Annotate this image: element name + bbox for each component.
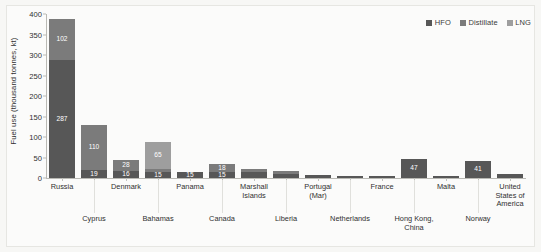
bar-value-label: 19: [90, 171, 97, 178]
bar-segment-hfo[interactable]: 41: [465, 161, 491, 178]
bar-stack[interactable]: [241, 169, 267, 178]
y-tick-label: 350: [29, 30, 42, 39]
y-tick-label: 150: [29, 112, 42, 121]
x-tick-mark: [62, 178, 63, 181]
x-label-leader-line: [286, 180, 287, 213]
bar-segment-dist[interactable]: 28: [113, 160, 139, 171]
x-axis-label-cell: Malta: [430, 180, 462, 246]
bar-segment-hfo[interactable]: 287: [49, 60, 75, 178]
bar-group[interactable]: 11019: [78, 14, 110, 178]
bar-stack[interactable]: 2816: [113, 160, 139, 178]
x-axis-label-cell: Portugal (Mar): [302, 180, 334, 246]
bar-stack[interactable]: 47: [401, 159, 427, 178]
bar-segment-dist[interactable]: 102: [49, 19, 75, 61]
plot-area: 050100150200250300350400 102287110192816…: [46, 14, 526, 178]
bar-stack[interactable]: 11019: [81, 125, 107, 178]
x-axis-label-cell: Denmark: [110, 180, 142, 246]
bar-group[interactable]: [302, 14, 334, 178]
bar-group[interactable]: 41: [462, 14, 494, 178]
x-tick-mark: [126, 178, 127, 181]
x-axis-label-cell: United States of America: [494, 180, 526, 246]
bar-value-label: 102: [56, 36, 67, 43]
y-tick-label: 250: [29, 71, 42, 80]
x-axis-label-cell: Russia: [46, 180, 78, 246]
bar-group[interactable]: [238, 14, 270, 178]
x-label-leader-line: [222, 180, 223, 213]
bar-segment-dist[interactable]: 110: [81, 125, 107, 170]
bar-group[interactable]: 2816: [110, 14, 142, 178]
x-tick-mark: [510, 178, 511, 181]
bar-value-label: 65: [154, 152, 161, 159]
y-tick-label: 300: [29, 51, 42, 60]
bar-stack[interactable]: 1815: [209, 164, 235, 178]
x-tick-mark: [382, 178, 383, 181]
bar-segment-dist[interactable]: 18: [209, 164, 235, 171]
bar-value-label: 28: [122, 162, 129, 169]
chart-container: HFODistillateLNG Fuel use (thousand tonn…: [0, 0, 541, 252]
y-tick-label: 400: [29, 10, 42, 19]
bar-value-label: 287: [56, 116, 67, 123]
bar-series-group: 10228711019281665151518154741: [46, 14, 526, 178]
y-tick-label: 50: [34, 153, 42, 162]
y-tick-label: 0: [38, 174, 42, 183]
bar-stack[interactable]: 41: [465, 161, 491, 178]
bar-stack[interactable]: 6515: [145, 142, 171, 178]
bar-group[interactable]: 47: [398, 14, 430, 178]
x-tick-mark: [190, 178, 191, 181]
bar-group[interactable]: [430, 14, 462, 178]
y-tick-label: 100: [29, 133, 42, 142]
x-label-leader-line: [414, 180, 415, 213]
bar-value-label: 18: [218, 165, 225, 172]
x-axis-label-cell: France: [366, 180, 398, 246]
x-tick-mark: [446, 178, 447, 181]
x-axis-label-text: United States of America: [488, 183, 532, 209]
y-axis-title-text: Fuel use (thousand tonnes, kt): [9, 37, 18, 144]
bar-group[interactable]: 102287: [46, 14, 78, 178]
y-axis-title: Fuel use (thousand tonnes, kt): [6, 16, 20, 166]
x-axis-label-cell: Marshall Islands: [238, 180, 270, 246]
bar-group[interactable]: [334, 14, 366, 178]
bar-value-label: 47: [410, 165, 417, 172]
bar-stack[interactable]: 102287: [49, 19, 75, 178]
bar-segment-hfo[interactable]: 19: [81, 170, 107, 178]
x-label-leader-line: [94, 180, 95, 213]
x-label-leader-line: [158, 180, 159, 213]
bar-group[interactable]: [366, 14, 398, 178]
x-axis-label-cell: Panama: [174, 180, 206, 246]
bar-value-label: 41: [474, 166, 481, 173]
bar-value-label: 110: [89, 144, 100, 151]
bar-group[interactable]: [270, 14, 302, 178]
y-tick-label: 200: [29, 92, 42, 101]
bar-group[interactable]: 15: [174, 14, 206, 178]
bar-segment-hfo[interactable]: 47: [401, 159, 427, 178]
bar-segment-lng[interactable]: 65: [145, 142, 171, 169]
x-tick-mark: [318, 178, 319, 181]
x-axis-label-group: RussiaCyprusDenmarkBahamasPanamaCanadaMa…: [46, 180, 526, 246]
x-label-leader-line: [350, 180, 351, 213]
bar-group[interactable]: [494, 14, 526, 178]
bar-group[interactable]: 1815: [206, 14, 238, 178]
bar-group[interactable]: 6515: [142, 14, 174, 178]
x-label-leader-line: [478, 180, 479, 213]
x-tick-mark: [254, 178, 255, 181]
